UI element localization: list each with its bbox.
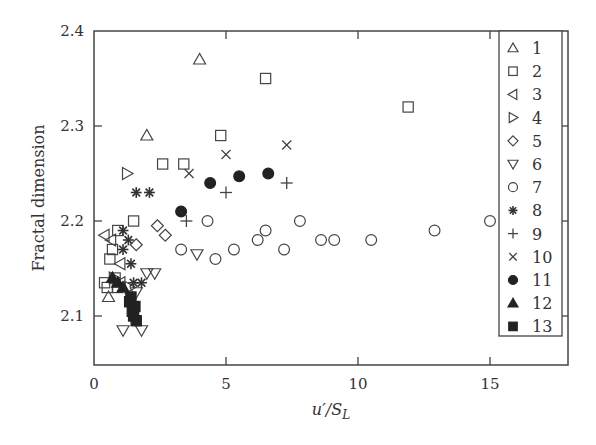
series-8: [118, 187, 155, 288]
legend-label: 11: [532, 271, 552, 290]
data-point: [131, 187, 142, 198]
legend-label: 4: [532, 109, 542, 128]
data-point: [194, 54, 206, 65]
data-point: [220, 187, 232, 199]
data-point: [205, 178, 216, 189]
y-tick-label: 2.4: [60, 22, 84, 40]
data-point: [141, 130, 153, 141]
x-tick-label: 10: [348, 375, 367, 393]
data-point: [130, 301, 140, 311]
data-point: [234, 171, 245, 182]
data-point: [129, 216, 139, 226]
series-5: [130, 220, 171, 251]
data-point: [260, 225, 271, 236]
data-point: [261, 73, 271, 83]
legend-label: 1: [532, 39, 542, 58]
data-point: [429, 225, 440, 236]
legend-label: 13: [532, 317, 552, 336]
x-tick-label: 0: [89, 375, 99, 393]
legend-label: 7: [532, 178, 542, 197]
data-point: [114, 258, 125, 270]
legend: 12345678910111213: [499, 31, 562, 336]
legend-label: 3: [532, 85, 542, 104]
data-point: [202, 216, 213, 227]
data-point: [99, 229, 110, 241]
data-point: [329, 235, 340, 246]
x-tick-labels: 051015: [89, 375, 499, 393]
data-point: [295, 216, 306, 227]
data-point: [176, 206, 187, 217]
data-point: [185, 169, 194, 178]
y-axis-title: Fractal dimension: [29, 125, 48, 272]
series-7: [176, 216, 496, 265]
data-point: [222, 150, 231, 159]
data-point: [151, 220, 163, 232]
legend-label: 12: [532, 294, 552, 313]
data-point: [117, 326, 129, 337]
series-13: [125, 292, 142, 326]
data-point: [126, 292, 136, 302]
data-point: [279, 244, 290, 255]
data-point: [281, 177, 293, 189]
data-point: [141, 269, 153, 280]
legend-marker-11: [509, 276, 518, 285]
data-point: [176, 244, 187, 255]
data-point: [282, 141, 291, 150]
data-point: [191, 250, 203, 261]
data-point: [316, 235, 327, 246]
data-point: [159, 229, 171, 241]
y-tick-label: 2.1: [60, 307, 84, 325]
data-point: [136, 326, 148, 337]
legend-label: 2: [532, 62, 542, 81]
data-point: [144, 187, 155, 198]
legend-marker-8: [509, 206, 518, 215]
data-point: [118, 244, 129, 255]
data-points: [99, 54, 496, 337]
scatter-chart: 051015 2.12.22.32.4 12345678910111213 u′…: [0, 0, 596, 445]
data-point: [123, 235, 134, 246]
data-point: [105, 254, 115, 264]
data-point: [179, 159, 189, 169]
legend-label: 6: [532, 155, 542, 174]
legend-label: 5: [532, 132, 542, 151]
data-point: [403, 102, 413, 112]
data-point: [126, 258, 137, 269]
data-point: [485, 216, 496, 227]
series-1: [103, 54, 206, 302]
legend-label: 8: [532, 201, 542, 220]
legend-marker-13: [509, 322, 518, 331]
data-point: [252, 235, 263, 246]
legend-label: 10: [532, 248, 552, 267]
data-point: [216, 130, 226, 140]
data-point: [131, 316, 141, 326]
series-2: [99, 73, 413, 292]
data-point: [263, 168, 274, 179]
data-point: [158, 159, 168, 169]
x-tick-label: 15: [480, 375, 499, 393]
x-axis-title: u′/SL: [312, 400, 350, 422]
data-point: [136, 277, 147, 288]
data-point: [118, 225, 129, 236]
data-point: [229, 244, 240, 255]
data-point: [210, 254, 221, 265]
data-point: [123, 168, 134, 180]
legend-label: 9: [532, 225, 542, 244]
data-point: [149, 269, 161, 280]
x-tick-label: 5: [221, 375, 231, 393]
plot-frame: [94, 31, 568, 365]
series-9: [180, 177, 292, 227]
data-point: [366, 235, 377, 246]
axis-ticks: [94, 31, 568, 365]
y-tick-label: 2.3: [60, 117, 84, 135]
y-tick-label: 2.2: [60, 212, 84, 230]
y-tick-labels: 2.12.22.32.4: [60, 22, 84, 325]
